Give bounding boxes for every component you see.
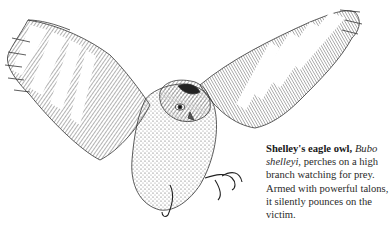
caption-title: Shelley's eagle owl, bbox=[266, 143, 352, 154]
left-wing bbox=[5, 20, 150, 160]
caption: Shelley's eagle owl, Bubo shelleyi, perc… bbox=[266, 142, 390, 221]
right-wing bbox=[200, 10, 362, 128]
